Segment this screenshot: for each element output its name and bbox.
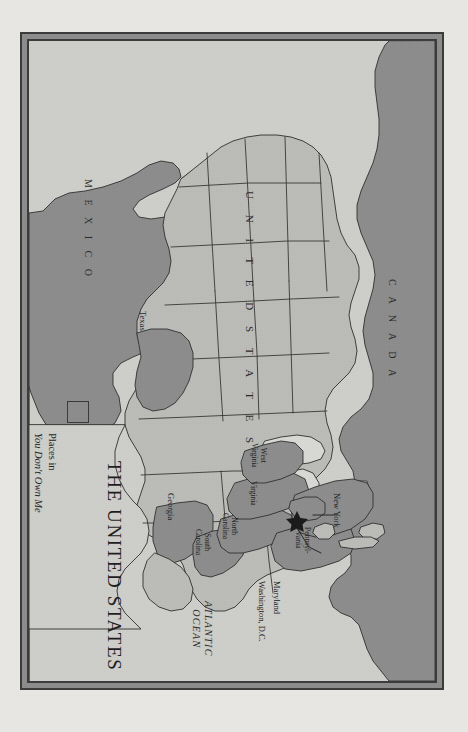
map-plate-page: M E X I C O C A N A D A U N I T E D S T … <box>0 0 468 732</box>
legend-caption-line1: Places in <box>47 433 58 471</box>
plate-frame-inner: M E X I C O C A N A D A U N I T E D S T … <box>27 39 437 683</box>
map-artwork <box>29 41 435 681</box>
map-legend: Places in You Don't Own Me <box>47 379 111 569</box>
map-canvas: M E X I C O C A N A D A U N I T E D S T … <box>29 41 435 681</box>
legend-swatch-highlight <box>67 401 89 423</box>
legend-caption: Places in You Don't Own Me <box>33 433 63 513</box>
legend-caption-line2: You Don't Own Me <box>33 433 44 513</box>
